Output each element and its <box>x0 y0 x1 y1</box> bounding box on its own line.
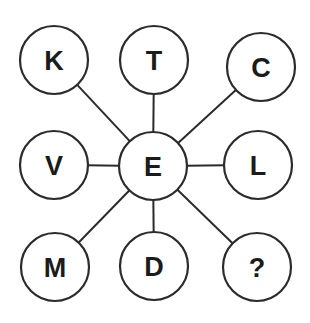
node-m[interactable]: M <box>21 233 89 301</box>
node-label: M <box>44 253 67 283</box>
hub-node-e[interactable]: E <box>119 132 187 200</box>
node-question[interactable]: ? <box>223 233 291 301</box>
node-label: C <box>251 53 271 83</box>
node-label: T <box>146 46 163 76</box>
node-label: V <box>45 151 63 181</box>
spoke-m <box>78 190 130 244</box>
node-label: K <box>44 46 64 76</box>
diagram-canvas: EKTCVLMD? <box>0 0 310 323</box>
node-v[interactable]: V <box>20 131 88 199</box>
spoke-q <box>177 189 234 244</box>
spoke-c <box>177 89 236 143</box>
node-c[interactable]: C <box>227 33 295 101</box>
node-label: ? <box>249 253 266 283</box>
node-k[interactable]: K <box>20 26 88 94</box>
node-label: L <box>250 151 267 181</box>
node-d[interactable]: D <box>120 232 188 300</box>
node-t[interactable]: T <box>120 26 188 94</box>
node-label: E <box>144 152 162 182</box>
spoke-k <box>77 84 131 142</box>
nodes-layer: EKTCVLMD? <box>20 26 295 301</box>
node-label: D <box>144 252 164 282</box>
letter-wheel-diagram: EKTCVLMD? <box>0 0 310 323</box>
node-l[interactable]: L <box>224 131 292 199</box>
